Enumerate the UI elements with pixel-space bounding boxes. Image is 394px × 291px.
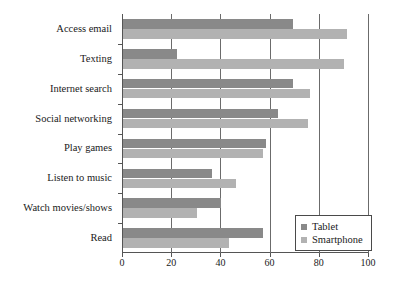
category-label: Listen to music [47, 172, 112, 183]
bar-tablet-play-games [123, 139, 266, 149]
y-tick [118, 134, 122, 135]
x-tick-label: 0 [107, 257, 137, 268]
bar-tablet-social-networking [123, 109, 278, 119]
bar-smartphone-internet-search [123, 89, 310, 99]
category-label: Access email [56, 23, 112, 34]
bar-tablet-internet-search [123, 79, 293, 89]
bar-smartphone-watch-movies-shows [123, 208, 197, 218]
x-tick-label: 20 [156, 257, 186, 268]
legend-swatch-icon [301, 224, 307, 230]
legend-item-smartphone: Smartphone [301, 233, 365, 246]
y-tick [118, 223, 122, 224]
y-tick [118, 44, 122, 45]
bar-smartphone-access-email [123, 29, 347, 39]
x-axis-line [122, 252, 369, 253]
bar-tablet-access-email [123, 19, 293, 29]
bar-smartphone-listen-to-music [123, 179, 236, 189]
gridline-60 [270, 14, 271, 253]
bar-smartphone-play-games [123, 149, 263, 159]
category-label: Internet search [50, 83, 112, 94]
legend-label: Smartphone [312, 234, 363, 245]
bar-tablet-listen-to-music [123, 169, 212, 179]
bar-smartphone-read [123, 238, 229, 248]
gridline-40 [220, 14, 221, 253]
bar-tablet-texting [123, 49, 177, 59]
bar-smartphone-social-networking [123, 119, 308, 129]
legend-item-tablet: Tablet [301, 220, 365, 233]
category-label: Texting [80, 53, 112, 64]
bar-smartphone-texting [123, 59, 344, 69]
y-tick [118, 163, 122, 164]
chart-legend: TabletSmartphone [295, 215, 372, 251]
category-label: Social networking [35, 113, 112, 124]
x-tick-label: 80 [304, 257, 334, 268]
y-tick [118, 193, 122, 194]
category-label: Play games [64, 142, 112, 153]
bar-tablet-watch-movies-shows [123, 198, 221, 208]
horizontal-bar-chart: Access emailTextingInternet searchSocial… [0, 0, 394, 291]
x-tick-label: 40 [205, 257, 235, 268]
category-label: Watch movies/shows [23, 202, 112, 213]
y-tick [118, 74, 122, 75]
x-tick-label: 100 [353, 257, 383, 268]
category-axis-labels: Access emailTextingInternet searchSocial… [0, 14, 117, 253]
x-tick-label: 60 [255, 257, 285, 268]
bar-tablet-read [123, 228, 263, 238]
category-label: Read [90, 232, 112, 243]
legend-swatch-icon [301, 237, 307, 243]
legend-label: Tablet [312, 221, 338, 232]
y-tick [118, 104, 122, 105]
